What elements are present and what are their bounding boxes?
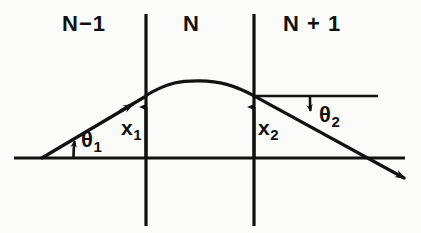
variable-x1-base: x — [121, 116, 133, 139]
variable-x1-subscript: 1 — [133, 126, 141, 143]
incident-ray-continuation — [120, 96, 147, 112]
theta2-angle-arrow — [310, 97, 311, 111]
variable-x2-base: x — [258, 116, 270, 139]
curved-ray-layer-n — [146, 81, 254, 96]
angle-theta1-subscript: 1 — [93, 138, 101, 155]
variable-label-x1: x1 — [121, 117, 142, 138]
figure-canvas: N−1 N N + 1 x1 x2 θ1 θ2 — [0, 0, 421, 233]
variable-x2-subscript: 2 — [270, 126, 278, 143]
angle-theta1-base: θ — [81, 127, 93, 152]
angle-theta2-subscript: 2 — [331, 113, 339, 130]
theta1-angle-arrow — [74, 141, 75, 157]
region-label-n-plus-1: N + 1 — [283, 13, 341, 35]
region-label-n-minus-1: N−1 — [62, 13, 106, 35]
variable-label-x2: x2 — [258, 117, 279, 138]
angle-label-theta2: θ2 — [319, 104, 340, 126]
region-label-n: N — [183, 13, 200, 35]
angle-label-theta1: θ1 — [81, 129, 102, 151]
angle-theta2-base: θ — [319, 102, 331, 127]
